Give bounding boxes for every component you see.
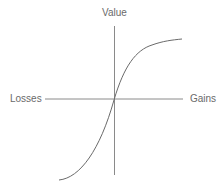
losses-label: Losses <box>10 93 42 105</box>
gains-label: Gains <box>190 93 216 105</box>
y-axis-label: Value <box>102 7 127 19</box>
value-curve <box>59 39 182 180</box>
